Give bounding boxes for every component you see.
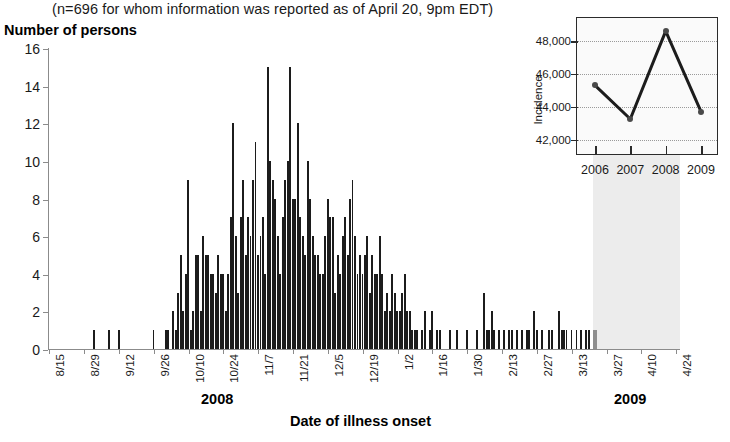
inset-line-path (577, 18, 719, 156)
bar (493, 330, 495, 349)
y-axis-line (48, 48, 49, 350)
x-tick (641, 350, 642, 354)
chart-subtitle: (n=696 for whom information was reported… (52, 1, 493, 17)
inset-x-tick-label: 2007 (616, 163, 644, 177)
bar (439, 330, 441, 349)
x-tick (537, 350, 538, 354)
x-tick (49, 350, 50, 354)
x-tick (432, 350, 433, 354)
x-tick-label: 2/27 (542, 354, 554, 376)
inset-data-point (698, 109, 704, 115)
y-tick (43, 275, 48, 276)
bar (167, 330, 169, 349)
bar (521, 330, 523, 349)
y-tick (43, 162, 48, 163)
inset-plot-area: 42,00044,00046,00048,0002006200720082009 (577, 18, 717, 154)
inset-x-tick-label: 2009 (687, 163, 715, 177)
y-tick-label: 2 (32, 305, 40, 319)
bar (108, 330, 110, 349)
bar (536, 330, 538, 349)
bar (476, 330, 478, 349)
y-tick-label: 10 (24, 155, 40, 169)
x-tick-label: 1/16 (437, 354, 449, 376)
bar (431, 311, 433, 349)
bar (153, 330, 155, 349)
x-tick-label: 2/13 (507, 354, 519, 376)
bar (511, 330, 513, 349)
bar (449, 330, 451, 349)
x-tick-label: 12/5 (333, 354, 345, 376)
x-tick (84, 350, 85, 354)
inset-y-tick-label: 46,000 (536, 68, 571, 80)
y-tick-label: 6 (32, 230, 40, 244)
bar (588, 330, 590, 349)
inset-plot-box: 42,00044,00046,00048,0002006200720082009 (576, 17, 718, 155)
bar (118, 330, 120, 349)
y-tick (43, 87, 48, 88)
y-tick-label: 16 (24, 42, 40, 56)
bar (503, 330, 505, 349)
y-axis-title: Number of persons (4, 22, 137, 38)
bar (541, 330, 543, 349)
bar (187, 180, 189, 349)
inset-y-tick-label: 42,000 (536, 134, 571, 146)
x-tick (572, 350, 573, 354)
x-tick-label: 1/30 (472, 354, 484, 376)
bar (498, 330, 500, 349)
inset-data-point (592, 82, 598, 88)
bar (416, 330, 418, 349)
x-tick (119, 350, 120, 354)
x-tick (189, 350, 190, 354)
y-tick (43, 312, 48, 313)
y-tick (43, 124, 48, 125)
x-tick (398, 350, 399, 354)
bar (466, 330, 468, 349)
year-label-2009: 2009 (614, 391, 646, 407)
bar (528, 330, 530, 349)
bar (516, 330, 518, 349)
y-tick-label: 4 (32, 268, 40, 282)
x-tick (676, 350, 677, 354)
x-tick-label: 3/13 (577, 354, 589, 376)
x-tick-label: 10/24 (228, 354, 240, 383)
year-label-2008: 2008 (201, 391, 233, 407)
bar (424, 311, 426, 349)
inset-y-tick-label: 44,000 (536, 101, 571, 113)
bar (580, 330, 582, 349)
y-tick (43, 49, 48, 50)
bar (456, 330, 458, 349)
y-tick (43, 200, 48, 201)
x-tick-label: 11/7 (263, 354, 275, 376)
y-tick (43, 237, 48, 238)
x-tick-label: 12/19 (368, 354, 380, 383)
x-tick (363, 350, 364, 354)
x-tick-label: 9/26 (159, 354, 171, 376)
x-tick-label: 3/27 (612, 354, 624, 376)
x-axis-line (48, 349, 680, 350)
x-tick-label: 8/29 (89, 354, 101, 376)
x-tick (467, 350, 468, 354)
x-tick (154, 350, 155, 354)
y-tick (43, 350, 48, 351)
x-tick-label: 9/12 (124, 354, 136, 376)
y-tick-label: 0 (32, 343, 40, 357)
x-tick-label: 4/24 (681, 354, 693, 376)
bar (551, 330, 553, 349)
inset-y-tick-label: 48,000 (536, 35, 571, 47)
x-tick (502, 350, 503, 354)
x-tick (258, 350, 259, 354)
bar (576, 330, 578, 349)
x-tick (293, 350, 294, 354)
inset-data-point (627, 116, 633, 122)
x-tick-label: 8/15 (54, 354, 66, 376)
x-tick-label: 11/21 (298, 354, 310, 382)
x-tick-label: 4/10 (646, 354, 658, 376)
bar (595, 330, 597, 349)
inset-x-tick-label: 2006 (581, 163, 609, 177)
y-tick-label: 8 (32, 193, 40, 207)
x-tick (328, 350, 329, 354)
x-axis-title: Date of illness onset (290, 413, 431, 429)
x-tick-label: 10/10 (194, 354, 206, 383)
bar (571, 330, 573, 349)
y-tick-label: 14 (24, 80, 40, 94)
